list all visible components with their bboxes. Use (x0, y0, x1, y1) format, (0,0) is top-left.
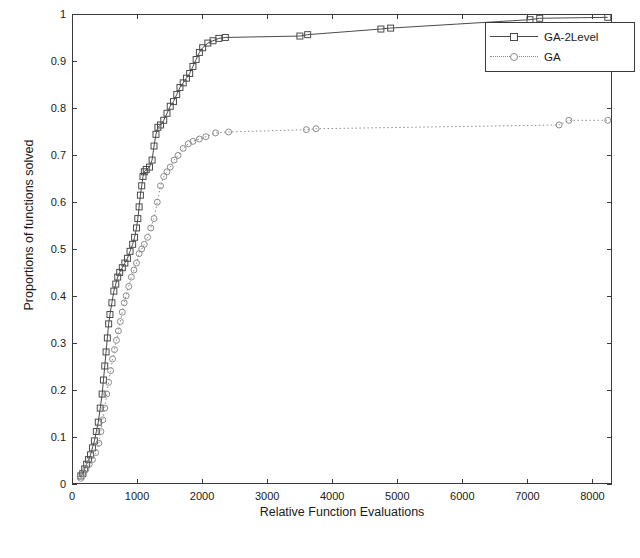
x-tick-mark-top (267, 14, 268, 19)
x-tick-mark (267, 479, 268, 484)
x-tick-mark (137, 479, 138, 484)
data-point-marker (175, 152, 181, 158)
y-tick-mark (72, 61, 77, 62)
x-tick-mark (592, 479, 593, 484)
x-tick-label: 4000 (320, 490, 344, 502)
x-axis-label: Relative Function Evaluations (72, 505, 612, 519)
x-tick-mark (202, 479, 203, 484)
x-tick-mark-top (72, 14, 73, 19)
data-point-marker (96, 440, 102, 446)
y-tick-label: 0.8 (32, 102, 66, 114)
y-tick-mark-right (607, 390, 612, 391)
y-tick-mark-right (607, 202, 612, 203)
y-tick-label: 0.6 (32, 196, 66, 208)
circle-marker-icon (510, 53, 518, 61)
x-tick-mark-top (137, 14, 138, 19)
y-tick-mark-right (607, 296, 612, 297)
data-point-marker (123, 293, 129, 299)
data-point-marker (119, 309, 125, 315)
data-point-marker (100, 417, 106, 423)
y-tick-mark-right (607, 108, 612, 109)
data-point-marker (128, 274, 134, 280)
data-point-marker (104, 391, 110, 397)
x-tick-label: 6000 (450, 490, 474, 502)
x-tick-mark-top (527, 14, 528, 19)
y-tick-mark (72, 202, 77, 203)
x-tick-mark-top (202, 14, 203, 19)
x-tick-label: 8000 (580, 490, 604, 502)
x-tick-mark (527, 479, 528, 484)
legend-item-ga-2level: GA-2Level (490, 27, 630, 47)
y-tick-label: 0.5 (32, 243, 66, 255)
y-tick-mark-right (607, 343, 612, 344)
data-point-marker (213, 130, 219, 136)
y-tick-label: 0.3 (32, 337, 66, 349)
square-marker-icon (510, 33, 518, 41)
data-point-marker (180, 145, 186, 151)
x-tick-mark-top (462, 14, 463, 19)
y-tick-label: 0.4 (32, 290, 66, 302)
y-tick-mark-right (607, 437, 612, 438)
y-tick-mark (72, 249, 77, 250)
x-tick-mark-top (332, 14, 333, 19)
y-tick-label: 0.2 (32, 384, 66, 396)
data-point-marker (110, 356, 116, 362)
y-tick-mark (72, 484, 77, 485)
y-tick-mark-right (607, 14, 612, 15)
y-tick-mark-right (607, 484, 612, 485)
data-point-marker (117, 319, 123, 325)
data-point-marker (148, 225, 154, 231)
data-point-marker (131, 267, 137, 273)
x-tick-label: 2000 (190, 490, 214, 502)
y-tick-mark-right (607, 249, 612, 250)
data-point-marker (98, 429, 104, 435)
x-tick-mark (397, 479, 398, 484)
x-tick-label: 3000 (255, 490, 279, 502)
y-tick-mark (72, 390, 77, 391)
x-tick-label: 0 (69, 490, 75, 502)
data-point-marker (141, 241, 147, 247)
series-line-ga-2level (81, 17, 608, 476)
legend-item-ga: GA (490, 47, 630, 67)
x-tick-label: 5000 (385, 490, 409, 502)
data-point-marker (108, 368, 114, 374)
series-canvas (73, 15, 611, 483)
y-tick-mark (72, 108, 77, 109)
data-point-marker (196, 136, 202, 142)
x-tick-mark (72, 479, 73, 484)
y-tick-label: 0.1 (32, 431, 66, 443)
chart-legend: GA-2Level GA (485, 22, 635, 72)
y-tick-label: 0.9 (32, 55, 66, 67)
x-tick-mark (462, 479, 463, 484)
chart-figure: 00.10.20.30.40.50.60.70.80.91 0100020003… (0, 0, 640, 558)
x-tick-label: 7000 (515, 490, 539, 502)
legend-sample-dotted-circle (490, 50, 538, 64)
y-tick-mark (72, 437, 77, 438)
x-tick-mark (332, 479, 333, 484)
y-tick-label: 0.7 (32, 149, 66, 161)
y-tick-mark (72, 296, 77, 297)
y-tick-label: 0 (32, 478, 66, 490)
x-tick-mark-top (592, 14, 593, 19)
y-tick-mark (72, 155, 77, 156)
legend-label-ga-2level: GA-2Level (538, 31, 598, 43)
legend-sample-solid-square (490, 30, 538, 44)
y-axis-label: Proportions of functions solved (22, 15, 36, 435)
legend-label-ga: GA (538, 51, 561, 63)
plot-area (72, 14, 612, 484)
series-line-ga (81, 120, 608, 478)
y-tick-mark (72, 343, 77, 344)
y-tick-mark-right (607, 155, 612, 156)
y-tick-label: 1 (32, 8, 66, 20)
data-point-marker (102, 405, 108, 411)
x-tick-mark-top (397, 14, 398, 19)
x-tick-label: 1000 (125, 490, 149, 502)
